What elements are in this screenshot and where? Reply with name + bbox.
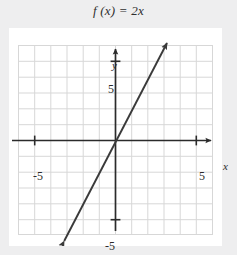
y-tick-label-5: 5 <box>108 82 114 97</box>
function-graph-figure: f (x) = 2x <box>0 0 237 255</box>
x-axis-label: x <box>223 160 228 172</box>
x-tick-label-5: 5 <box>199 169 205 184</box>
x-tick-label-minus5: -5 <box>33 169 43 184</box>
y-axis-label: y <box>112 59 117 71</box>
page-title: f (x) = 2x <box>0 3 237 19</box>
plot-area: y x 5 -5 -5 5 <box>9 28 222 246</box>
y-tick-label-minus5: -5 <box>105 239 115 254</box>
